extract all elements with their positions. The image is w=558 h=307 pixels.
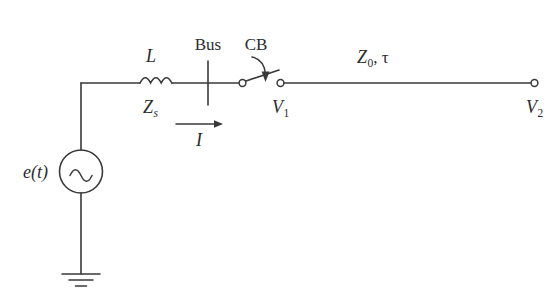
breaker-left-terminal — [239, 80, 246, 87]
ac-source-circle — [60, 150, 103, 193]
v1-terminal — [277, 80, 284, 87]
bus-label: Bus — [195, 35, 221, 54]
v1-subscript: 1 — [284, 107, 290, 119]
breaker-trip-arrowhead — [262, 72, 270, 82]
circuit-diagram: e(t) L Zs Bus CB I Z0, τ V1 V2 — [0, 0, 558, 307]
line-impedance-label: Z0, τ — [357, 47, 389, 69]
v1-label: V1 — [272, 97, 290, 119]
current-label: I — [195, 130, 203, 150]
circuit-schematic-svg: e(t) L Zs Bus CB I Z0, τ V1 V2 — [0, 0, 558, 307]
breaker-trip-arc — [252, 57, 266, 74]
v2-terminal — [531, 80, 538, 87]
v2-subscript: 2 — [538, 107, 544, 119]
inductor-label: L — [145, 46, 156, 66]
v2-label: V2 — [526, 97, 544, 119]
source-impedance-symbol: Z — [143, 97, 154, 117]
current-arrow-head — [214, 120, 223, 128]
source-impedance-label: Zs — [143, 97, 159, 119]
source-label: e(t) — [23, 162, 48, 183]
line-impedance-symbol: Z — [357, 47, 368, 67]
series-inductor — [140, 78, 172, 83]
sine-wave-icon — [70, 170, 92, 182]
line-delay-symbol: τ — [382, 48, 389, 67]
line-impedance-separator: , — [373, 48, 382, 67]
breaker-label: CB — [245, 35, 268, 54]
source-impedance-subscript: s — [154, 107, 159, 119]
